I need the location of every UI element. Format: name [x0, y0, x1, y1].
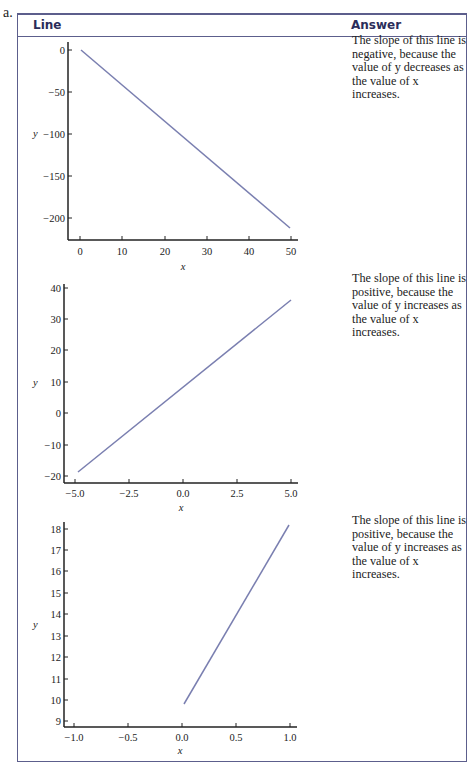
svg-text:x: x: [177, 745, 183, 756]
svg-text:−5.0: −5.0: [65, 488, 84, 499]
chart-2-y-ticks: 40 30 20 10 0 −10 −20: [45, 283, 61, 482]
chart-1-x-ticks: 0 10 20 30 40 50: [77, 246, 296, 257]
svg-text:11: 11: [51, 674, 61, 685]
svg-text:40: 40: [244, 246, 255, 257]
svg-text:−10: −10: [45, 440, 61, 451]
chart-1: 0 10 20 30 40 50 0 −50 −100 −150 −200 x …: [32, 42, 298, 272]
chart-1-y-ticks: 0 −50 −100 −150 −200: [43, 45, 65, 224]
chart-2: −5.0 −2.5 0.0 2.5 5.0 40 30 20 10 0 −10 …: [32, 283, 298, 513]
svg-text:10: 10: [51, 377, 62, 388]
svg-text:−20: −20: [45, 471, 61, 482]
svg-text:y: y: [32, 619, 38, 630]
svg-text:−50: −50: [49, 87, 65, 98]
svg-text:0.0: 0.0: [175, 732, 188, 743]
chart-2-line: [78, 300, 291, 472]
svg-text:30: 30: [51, 314, 62, 325]
svg-text:20: 20: [51, 345, 62, 356]
svg-text:15: 15: [51, 588, 62, 599]
svg-text:0.0: 0.0: [176, 488, 189, 499]
svg-text:−150: −150: [43, 171, 65, 182]
svg-text:x: x: [178, 502, 184, 513]
svg-text:14: 14: [51, 609, 62, 620]
svg-text:17: 17: [51, 545, 62, 556]
svg-text:−1.0: −1.0: [64, 732, 83, 743]
svg-text:16: 16: [51, 566, 62, 577]
svg-text:10: 10: [51, 695, 62, 706]
svg-text:y: y: [32, 128, 38, 139]
chart-1-line: [81, 50, 290, 228]
svg-text:0: 0: [60, 45, 65, 56]
svg-text:2.5: 2.5: [230, 488, 243, 499]
svg-text:10: 10: [117, 246, 128, 257]
svg-text:20: 20: [160, 246, 171, 257]
svg-text:−0.5: −0.5: [118, 732, 137, 743]
svg-text:y: y: [32, 377, 38, 388]
svg-text:−2.5: −2.5: [119, 488, 138, 499]
svg-text:40: 40: [51, 283, 62, 294]
svg-text:18: 18: [51, 524, 62, 535]
svg-text:5.0: 5.0: [284, 488, 297, 499]
svg-text:−100: −100: [43, 129, 65, 140]
svg-text:9: 9: [56, 716, 61, 727]
chart-2-x-ticks: −5.0 −2.5 0.0 2.5 5.0: [65, 488, 297, 499]
chart-3-line: [184, 525, 289, 704]
svg-text:−200: −200: [43, 213, 65, 224]
svg-text:0.5: 0.5: [229, 732, 242, 743]
svg-text:30: 30: [202, 246, 213, 257]
svg-text:x: x: [180, 261, 186, 272]
chart-3: −1.0 −0.5 0.0 0.5 1.0 18 17 16 15 14 13 …: [32, 522, 297, 756]
svg-text:13: 13: [51, 631, 62, 642]
charts-layer: 0 10 20 30 40 50 0 −50 −100 −150 −200 x …: [0, 0, 472, 769]
svg-text:0: 0: [56, 408, 61, 419]
svg-text:1.0: 1.0: [283, 732, 296, 743]
svg-text:50: 50: [286, 246, 297, 257]
chart-3-x-ticks: −1.0 −0.5 0.0 0.5 1.0: [64, 732, 296, 743]
svg-text:0: 0: [77, 246, 82, 257]
chart-3-y-ticks: 18 17 16 15 14 13 12 11 10 9: [51, 524, 62, 727]
svg-text:12: 12: [51, 652, 62, 663]
